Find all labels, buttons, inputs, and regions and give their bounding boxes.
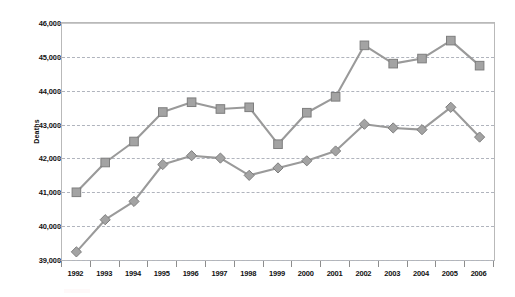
data-point-marker xyxy=(303,108,312,117)
data-point-marker xyxy=(273,163,283,173)
x-axis-tick-mark xyxy=(291,261,292,267)
y-axis-tick-label: 46,000 xyxy=(7,19,61,28)
x-axis-tick-label: 1994 xyxy=(125,269,141,278)
chart-container: Deaths 39,00040,00041,00042,00043,00044,… xyxy=(0,0,515,297)
x-axis-tick-mark xyxy=(176,261,177,267)
y-axis-tick-label: 39,000 xyxy=(7,256,61,265)
data-point-marker xyxy=(187,98,196,107)
data-point-marker xyxy=(331,93,340,102)
x-axis-ticks xyxy=(61,261,495,268)
x-axis-tick-mark xyxy=(205,261,206,267)
x-axis-tick-label: 1999 xyxy=(269,269,285,278)
data-point-marker xyxy=(388,123,398,133)
x-axis-tick-mark xyxy=(407,261,408,267)
x-axis-tick-mark xyxy=(493,261,494,267)
x-axis-tick-mark xyxy=(90,261,91,267)
y-axis-tick-label: 40,000 xyxy=(7,222,61,231)
x-axis-tick-labels: 1992199319941995199619971998199920002001… xyxy=(61,269,495,283)
y-axis-tick-label: 43,000 xyxy=(7,120,61,129)
data-point-marker xyxy=(130,137,139,146)
data-point-marker xyxy=(245,103,254,112)
x-axis-tick-mark xyxy=(119,261,120,267)
data-point-marker xyxy=(101,158,110,167)
x-axis-tick-mark xyxy=(147,261,148,267)
y-axis-tick-labels: 39,00040,00041,00042,00043,00044,00045,0… xyxy=(0,22,61,261)
plot-area xyxy=(61,22,495,261)
data-point-marker xyxy=(215,153,225,163)
x-axis-tick-label: 1995 xyxy=(154,269,170,278)
data-point-marker xyxy=(447,36,456,45)
data-point-marker xyxy=(389,59,398,68)
data-point-marker xyxy=(72,188,81,197)
x-axis-tick-label: 1996 xyxy=(183,269,199,278)
data-point-marker xyxy=(216,105,225,114)
x-axis-tick-mark xyxy=(320,261,321,267)
x-axis-tick-mark xyxy=(464,261,465,267)
x-axis-tick-mark xyxy=(435,261,436,267)
x-axis-tick-mark xyxy=(263,261,264,267)
y-axis-tick-label: 45,000 xyxy=(7,52,61,61)
legend-swatch-cropped xyxy=(64,289,90,293)
data-point-marker xyxy=(159,108,168,117)
x-axis-tick-label: 2000 xyxy=(298,269,314,278)
data-point-marker xyxy=(274,140,283,149)
x-axis-tick-label: 2004 xyxy=(413,269,429,278)
x-axis-tick-label: 1992 xyxy=(67,269,83,278)
x-axis-tick-mark xyxy=(234,261,235,267)
x-axis-tick-label: 2005 xyxy=(442,269,458,278)
y-axis-tick-label: 41,000 xyxy=(7,188,61,197)
x-axis-tick-label: 2001 xyxy=(327,269,343,278)
x-axis-tick-label: 2006 xyxy=(471,269,487,278)
x-axis-tick-mark xyxy=(349,261,350,267)
x-axis-tick-label: 2002 xyxy=(355,269,371,278)
x-axis-tick-mark xyxy=(378,261,379,267)
x-axis-tick-label: 1993 xyxy=(96,269,112,278)
x-axis-tick-label: 1998 xyxy=(240,269,256,278)
data-point-marker xyxy=(418,54,427,63)
y-axis-tick-label: 44,000 xyxy=(7,86,61,95)
x-axis-tick-label: 1997 xyxy=(211,269,227,278)
y-axis-tick-label: 42,000 xyxy=(7,154,61,163)
data-point-marker xyxy=(244,170,254,180)
x-axis-tick-mark xyxy=(61,261,62,267)
series-layer xyxy=(62,23,494,260)
data-point-marker xyxy=(360,41,369,50)
data-point-marker xyxy=(187,151,197,161)
x-axis-tick-label: 2003 xyxy=(384,269,400,278)
data-point-marker xyxy=(475,61,484,70)
data-point-marker xyxy=(302,156,312,166)
